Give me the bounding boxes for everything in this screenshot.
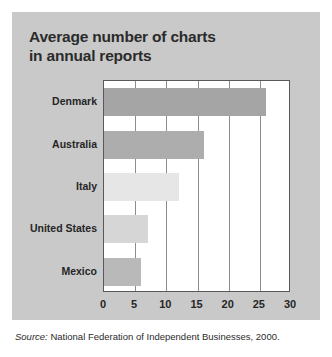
- bar-italy: [104, 173, 179, 201]
- category-label-mexico: Mexico: [0, 266, 97, 277]
- chart-title: Average number of charts in annual repor…: [29, 28, 299, 66]
- bar-australia: [104, 131, 204, 159]
- x-axis-tick-labels: 051015202530: [103, 298, 290, 314]
- bar-united-states: [104, 215, 148, 243]
- bar-row: [104, 173, 291, 201]
- bar-row: [104, 258, 291, 286]
- bar-denmark: [104, 88, 266, 116]
- chart-panel: Average number of charts in annual repor…: [12, 12, 320, 320]
- bar-row: [104, 215, 291, 243]
- x-tick-15: 15: [182, 298, 212, 310]
- category-label-italy: Italy: [0, 181, 97, 192]
- x-tick-20: 20: [213, 298, 243, 310]
- source-note: Source: National Federation of Independe…: [15, 331, 325, 342]
- category-label-australia: Australia: [0, 139, 97, 150]
- category-label-denmark: Denmark: [0, 96, 97, 107]
- figure-container: Average number of charts in annual repor…: [0, 0, 332, 357]
- x-tick-0: 0: [88, 298, 118, 310]
- bar-mexico: [104, 258, 141, 286]
- x-tick-30: 30: [275, 298, 305, 310]
- x-tick-25: 25: [244, 298, 274, 310]
- plot-area: [103, 80, 290, 292]
- source-text: National Federation of Independent Busin…: [48, 331, 280, 342]
- x-tick-10: 10: [150, 298, 180, 310]
- bar-row: [104, 131, 291, 159]
- x-tick-5: 5: [119, 298, 149, 310]
- source-label: Source:: [15, 331, 48, 342]
- bar-row: [104, 88, 291, 116]
- category-label-united-states: United States: [0, 223, 97, 234]
